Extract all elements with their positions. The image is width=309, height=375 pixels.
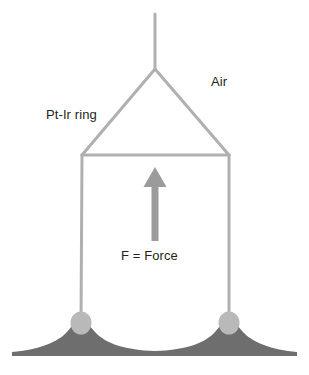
wetting-bead-left [71, 312, 92, 335]
liquid-body-group [12, 316, 297, 356]
force-arrow [144, 167, 167, 241]
label-force: F = Force [121, 248, 178, 263]
wetting-bead-right [219, 312, 240, 335]
tensiometer-diagram: Pt-Ir ring Air F = Force [0, 0, 309, 375]
force-arrow-shape [144, 167, 167, 241]
label-pt-ir-ring: Pt-Ir ring [46, 107, 97, 122]
liquid-body [12, 316, 297, 356]
diagram-canvas [0, 0, 309, 375]
ring-left-wire [81, 155, 82, 322]
label-air: Air [211, 74, 227, 89]
wetting-beads [71, 312, 240, 335]
